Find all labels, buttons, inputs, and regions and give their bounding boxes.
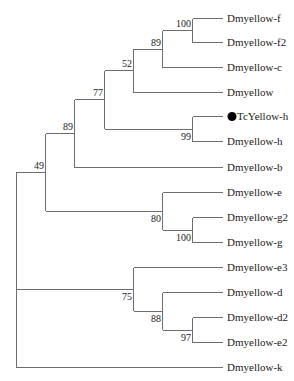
bootstrap-value: 75: [122, 291, 132, 302]
bootstrap-value: 89: [151, 37, 161, 48]
tree-branches: [17, 19, 223, 368]
leaf-label: Dmyellow-k: [227, 361, 283, 373]
bootstrap-value: 89: [63, 121, 73, 132]
leaf-label: TcYellow-h: [237, 110, 289, 122]
filled-circle-icon: [228, 112, 237, 121]
bootstrap-values: 10089529977891008049978875: [34, 18, 191, 343]
leaf-label: Dmyellow-f2: [227, 36, 286, 48]
leaf-label: Dmyellow-b: [227, 161, 283, 173]
bootstrap-value: 88: [151, 313, 161, 324]
leaf-label: Dmyellow-d: [227, 286, 283, 298]
leaf-label: Dmyellow-c: [227, 61, 282, 73]
leaf-label: Dmyellow: [227, 86, 273, 98]
leaf-label: Dmyellow-g: [227, 236, 283, 248]
phylogenetic-tree: 10089529977891008049978875 Dmyellow-fDmy…: [0, 0, 294, 381]
bootstrap-value: 49: [34, 160, 44, 171]
bootstrap-value: 97: [181, 332, 191, 343]
leaf-label: Dmyellow-d2: [227, 311, 288, 323]
leaf-label: Dmyellow-e3: [227, 261, 288, 273]
leaf-label: Dmyellow-e2: [227, 336, 287, 348]
bootstrap-value: 77: [93, 87, 103, 98]
bootstrap-value: 100: [176, 18, 191, 29]
leaf-label: Dmyellow-e: [227, 186, 282, 198]
bootstrap-value: 80: [151, 213, 161, 224]
bootstrap-value: 52: [122, 58, 132, 69]
leaf-label: Dmyellow-g2: [227, 211, 288, 223]
bootstrap-value: 99: [181, 131, 191, 142]
bootstrap-value: 100: [176, 232, 191, 243]
leaf-labels: Dmyellow-fDmyellow-f2Dmyellow-cDmyellowT…: [227, 12, 289, 373]
leaf-label: Dmyellow-f: [227, 12, 281, 24]
leaf-label: Dmyellow-h: [227, 135, 283, 147]
